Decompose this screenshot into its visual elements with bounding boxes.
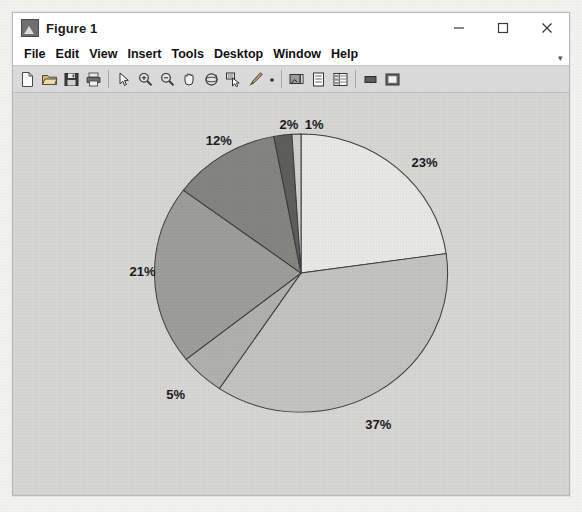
save-figure-icon[interactable] (61, 69, 82, 90)
new-figure-icon[interactable] (17, 69, 38, 90)
pie-chart[interactable]: 23%37%5%21%12%2%1% (13, 93, 569, 495)
data-cursor-icon[interactable] (223, 69, 244, 90)
show-plot-tools-icon[interactable] (382, 69, 403, 90)
brush-icon[interactable] (245, 69, 266, 90)
menu-item-window[interactable]: Window (268, 43, 326, 65)
zoom-in-icon[interactable] (135, 69, 156, 90)
menu-item-view[interactable]: View (84, 43, 122, 65)
pie-slice-label: 23% (411, 155, 437, 170)
insert-colorbar-icon[interactable] (286, 69, 307, 90)
title-bar: Figure 1 (13, 13, 569, 43)
plot-browser-icon[interactable] (330, 69, 351, 90)
pie-slice-label: 2% (280, 117, 299, 132)
window-controls (437, 13, 569, 43)
hide-plot-tools-icon[interactable] (360, 69, 381, 90)
link-data-dot-icon[interactable] (267, 69, 277, 90)
matlab-figure-icon (21, 19, 39, 37)
print-figure-icon[interactable] (83, 69, 104, 90)
pie-slice-label: 21% (129, 265, 155, 280)
insert-legend-icon[interactable] (308, 69, 329, 90)
pie-slice-label: 1% (305, 117, 324, 132)
menu-item-file[interactable]: File (19, 43, 51, 65)
menu-item-help[interactable]: Help (326, 43, 363, 65)
pie-slice-label: 5% (166, 388, 185, 403)
close-button[interactable] (525, 13, 569, 43)
separator-3 (355, 70, 356, 88)
minimize-button[interactable] (437, 13, 481, 43)
window-title: Figure 1 (46, 21, 97, 36)
menu-item-insert[interactable]: Insert (122, 43, 166, 65)
figure-window: Figure 1 File Edit View (12, 12, 570, 496)
zoom-out-icon[interactable] (157, 69, 178, 90)
menu-item-tools[interactable]: Tools (166, 43, 208, 65)
menu-item-edit[interactable]: Edit (51, 43, 85, 65)
pan-hand-icon[interactable] (179, 69, 200, 90)
pie-slice-group (155, 134, 448, 412)
rotate-3d-icon[interactable] (201, 69, 222, 90)
open-file-icon[interactable] (39, 69, 60, 90)
menu-item-desktop[interactable]: Desktop (209, 43, 268, 65)
separator-2 (281, 70, 282, 88)
pie-slice-label: 37% (365, 417, 391, 432)
menu-bar: File Edit View Insert Tools Desktop Wind… (13, 43, 569, 65)
figure-canvas[interactable]: 23%37%5%21%12%2%1% (13, 93, 569, 495)
menu-overflow-chevron-down-icon[interactable]: ▾ (558, 54, 563, 63)
toolbar (13, 65, 569, 93)
maximize-button[interactable] (481, 13, 525, 43)
edit-plot-pointer-icon[interactable] (113, 69, 134, 90)
separator-1 (108, 70, 109, 88)
pie-slice-label: 12% (206, 133, 232, 148)
